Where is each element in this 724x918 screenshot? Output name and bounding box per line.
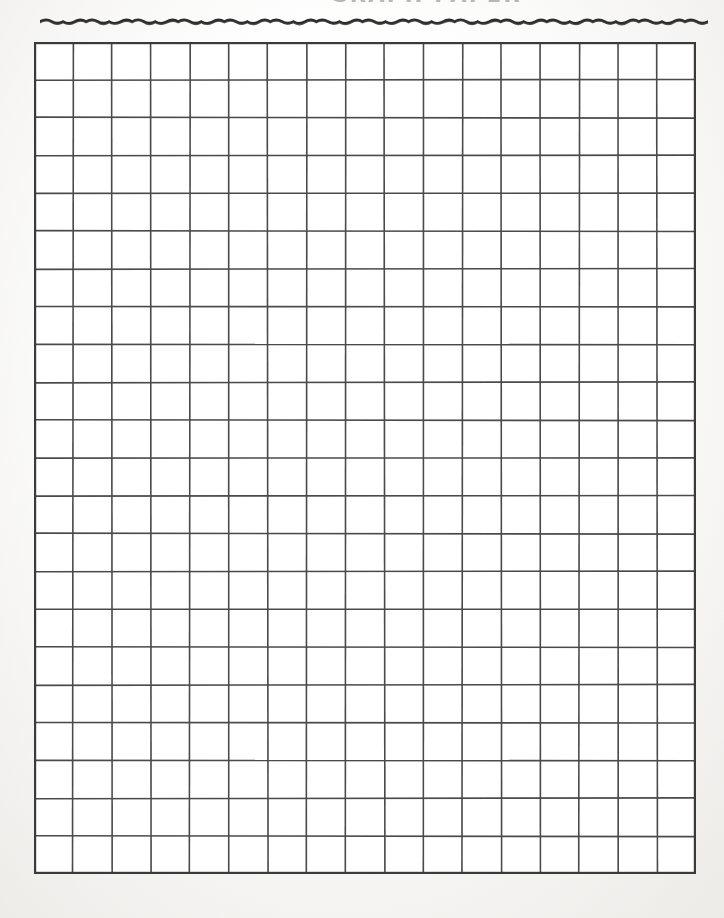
grid-line-horizontal [34, 496, 696, 497]
page-title-strip: GRAPH PAPER [0, 0, 724, 9]
grid-line-horizontal [34, 722, 696, 723]
grid-line-horizontal [34, 268, 696, 269]
grid-line-horizontal [34, 79, 696, 80]
grid-line-horizontal [34, 117, 696, 118]
grid-line-horizontal [34, 571, 696, 572]
page-title: GRAPH PAPER [330, 0, 522, 7]
grid-svg [34, 42, 696, 874]
grid-line-horizontal [34, 382, 696, 383]
grid-line-horizontal [34, 798, 696, 799]
graph-paper-page: GRAPH PAPER [0, 0, 724, 918]
grid-line-horizontal [34, 533, 696, 534]
grid-line-horizontal [34, 684, 696, 685]
grid-line-horizontal [34, 836, 696, 837]
graph-grid [34, 42, 696, 874]
grid-line-horizontal [34, 647, 696, 648]
wavy-rule-icon [40, 9, 708, 31]
grid-line-horizontal [34, 420, 696, 421]
grid-line-horizontal [34, 155, 696, 156]
wavy-rule-divider [40, 9, 708, 31]
grid-line-horizontal [34, 231, 696, 232]
